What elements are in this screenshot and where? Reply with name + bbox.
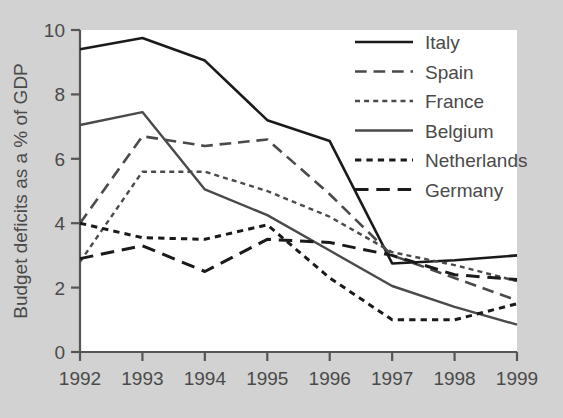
x-tick-label: 1998 (433, 368, 475, 389)
legend-label-italy: Italy (425, 32, 460, 53)
x-tick-label: 1997 (371, 368, 413, 389)
y-tick-label: 10 (44, 20, 65, 41)
y-tick-label: 2 (54, 278, 65, 299)
y-tick-label: 8 (54, 84, 65, 105)
legend-label-belgium: Belgium (425, 121, 494, 142)
x-tick-label: 1995 (246, 368, 288, 389)
line-chart: 0246810 19921993199419951996199719981999… (0, 0, 563, 418)
x-tick-label: 1993 (121, 368, 163, 389)
legend-label-spain: Spain (425, 62, 474, 83)
legend-label-france: France (425, 91, 484, 112)
x-tick-label: 1996 (309, 368, 351, 389)
y-tick-label: 0 (54, 342, 65, 363)
y-axis-title: Budget deficits as a % of GDP (10, 63, 31, 319)
y-tick-label: 4 (54, 213, 65, 234)
x-tick-label: 1992 (59, 368, 101, 389)
y-tick-label: 6 (54, 149, 65, 170)
legend-label-netherlands: Netherlands (425, 150, 527, 171)
chart-container: 0246810 19921993199419951996199719981999… (0, 0, 563, 418)
x-tick-label: 1994 (184, 368, 227, 389)
x-tick-label: 1999 (496, 368, 538, 389)
legend-label-germany: Germany (425, 180, 504, 201)
